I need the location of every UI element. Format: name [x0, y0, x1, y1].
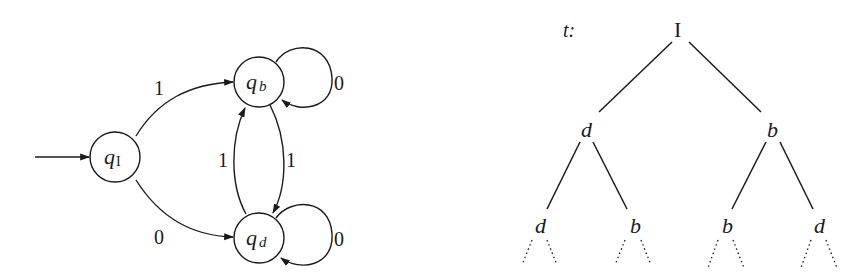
edge-qI-qb: [136, 82, 233, 136]
state-qI: q I: [90, 132, 140, 182]
tree-node-l2-2: b: [722, 213, 733, 238]
tree-node-l2-1: b: [630, 213, 641, 238]
state-qb-subscript: b: [259, 78, 267, 94]
state-qd-symbol: q: [246, 225, 257, 250]
tree: t: I d b d b b d: [522, 17, 837, 268]
label-qb-loop: 0: [334, 72, 344, 94]
tree-edge: [599, 42, 672, 112]
edge-qd-qb: [234, 108, 246, 214]
tree-node-l1-0: d: [581, 117, 593, 142]
tree-root: I: [674, 17, 681, 42]
state-qd-subscript: d: [259, 234, 267, 250]
tree-node-l2-3: d: [814, 213, 826, 238]
loop-qb: [276, 48, 332, 107]
tree-node-l2-0: d: [535, 213, 547, 238]
tree-edge: [780, 142, 813, 209]
edge-qb-qd: [270, 105, 284, 213]
tree-edge: [547, 142, 580, 209]
state-qI-symbol: q: [104, 144, 115, 169]
edge-qI-qd: [136, 180, 233, 237]
label-qd-qb: 1: [218, 149, 228, 171]
diagram-canvas: q I q b q d 1 0 1 1 0 0 t:: [0, 0, 867, 276]
label-qI-qd: 0: [154, 226, 164, 248]
state-qI-subscript: I: [116, 154, 121, 169]
automaton: q I q b q d 1 0 1 1 0 0: [35, 48, 344, 265]
tree-edge: [593, 142, 627, 209]
label-qb-qd: 1: [286, 149, 296, 171]
state-qb-symbol: q: [246, 69, 257, 94]
tree-edge: [732, 142, 766, 209]
tree-node-l1-1: b: [767, 117, 778, 142]
state-qb: q b: [234, 57, 284, 107]
label-qd-loop: 0: [334, 228, 344, 250]
label-qI-qb: 1: [154, 77, 164, 99]
tree-name: t:: [563, 19, 575, 41]
tree-edge: [689, 42, 761, 112]
tree-continuation: [522, 240, 837, 268]
state-qd: q d: [234, 213, 284, 263]
